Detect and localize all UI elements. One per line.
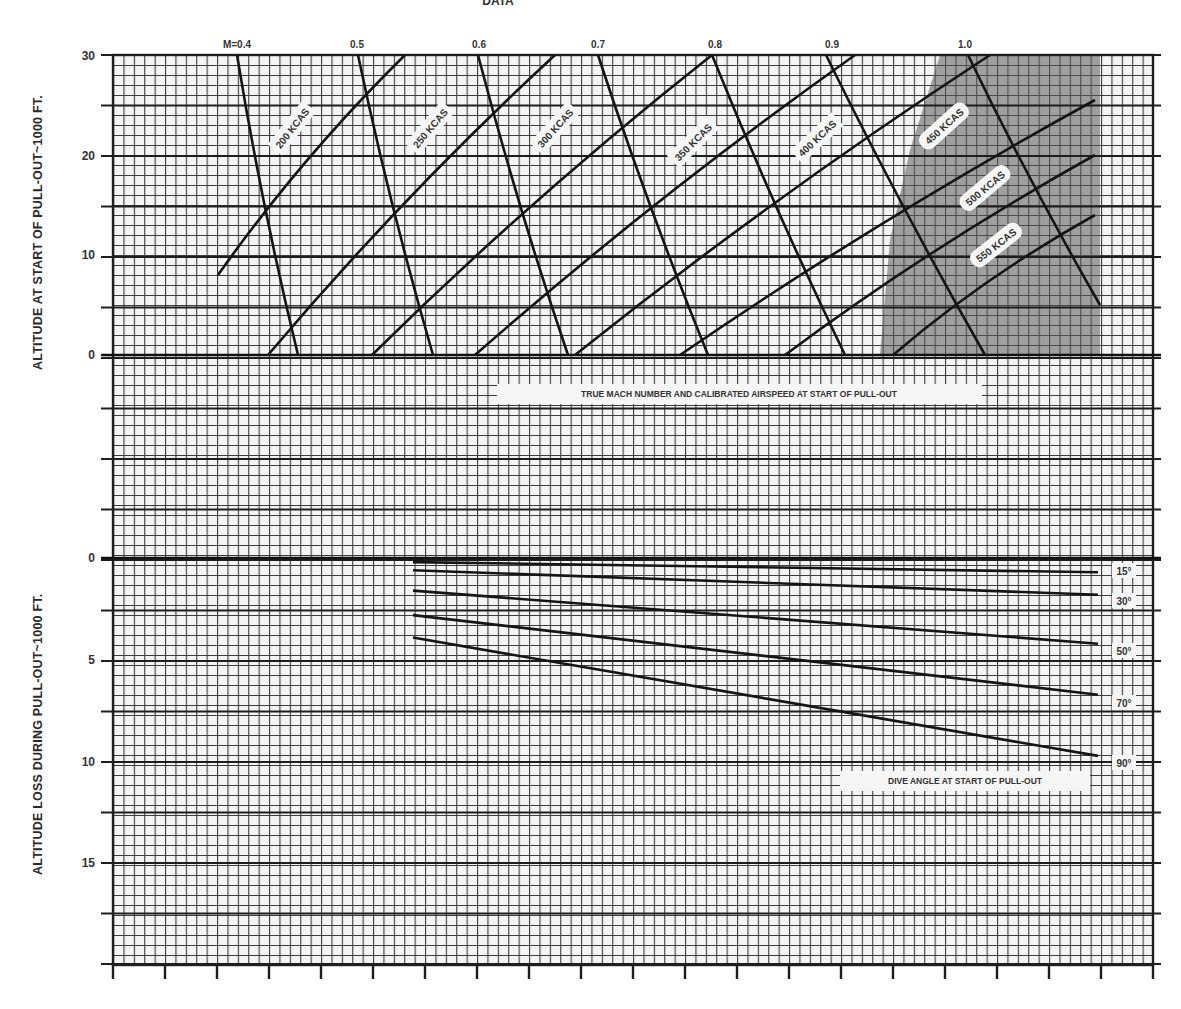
pull-out-chart: DATA ALTITUDE AT START OF PULL-OUT~1000 … — [0, 0, 1181, 1009]
lower-tick-10: 10 — [82, 755, 96, 769]
upper-tick-20: 20 — [82, 149, 96, 163]
mach-label-0.9: 0.9 — [825, 39, 839, 50]
svg-text:30°: 30° — [1116, 596, 1131, 607]
angle-label-15: 15° — [1112, 563, 1136, 578]
header-fragment: DATA — [482, 0, 514, 8]
axis-ticks — [113, 965, 1153, 979]
angle-label-30: 30° — [1112, 593, 1136, 608]
lower-tick-5: 5 — [88, 653, 95, 667]
upper-y-axis-label: ALTITUDE AT START OF PULL-OUT~1000 FT. — [31, 95, 45, 370]
upper-tick-30: 30 — [82, 49, 96, 63]
svg-text:70°: 70° — [1116, 698, 1131, 709]
mach-label-1.0: 1.0 — [958, 39, 972, 50]
angle-label-70: 70° — [1112, 695, 1136, 710]
svg-text:TRUE MACH NUMBER AND CALIBRATE: TRUE MACH NUMBER AND CALIBRATED AIRSPEED… — [581, 389, 898, 399]
mach-label-0.6: 0.6 — [472, 39, 486, 50]
mach-label-0.4: M=0.4 — [223, 39, 252, 50]
svg-text:90°: 90° — [1116, 758, 1131, 769]
lower-y-axis-label: ALTITUDE LOSS DURING PULL-OUT~1000 FT. — [31, 594, 45, 875]
lower-tick-15: 15 — [82, 856, 96, 870]
svg-text:15°: 15° — [1116, 566, 1131, 577]
upper-tick-0: 0 — [88, 348, 95, 362]
upper-x-axis-banner: TRUE MACH NUMBER AND CALIBRATED AIRSPEED… — [497, 384, 982, 404]
angle-label-90: 90° — [1112, 755, 1136, 770]
mach-label-0.7: 0.7 — [591, 39, 605, 50]
mach-label-0.8: 0.8 — [708, 39, 722, 50]
svg-text:DIVE ANGLE AT START OF PULL-OU: DIVE ANGLE AT START OF PULL-OUT — [888, 776, 1043, 786]
upper-tick-10: 10 — [82, 248, 96, 262]
angle-label-50: 50° — [1112, 643, 1136, 658]
mach-label-0.5: 0.5 — [350, 39, 364, 50]
svg-text:50°: 50° — [1116, 646, 1131, 657]
lower-x-axis-banner: DIVE ANGLE AT START OF PULL-OUT — [840, 771, 1090, 791]
lower-tick-0: 0 — [88, 551, 95, 565]
